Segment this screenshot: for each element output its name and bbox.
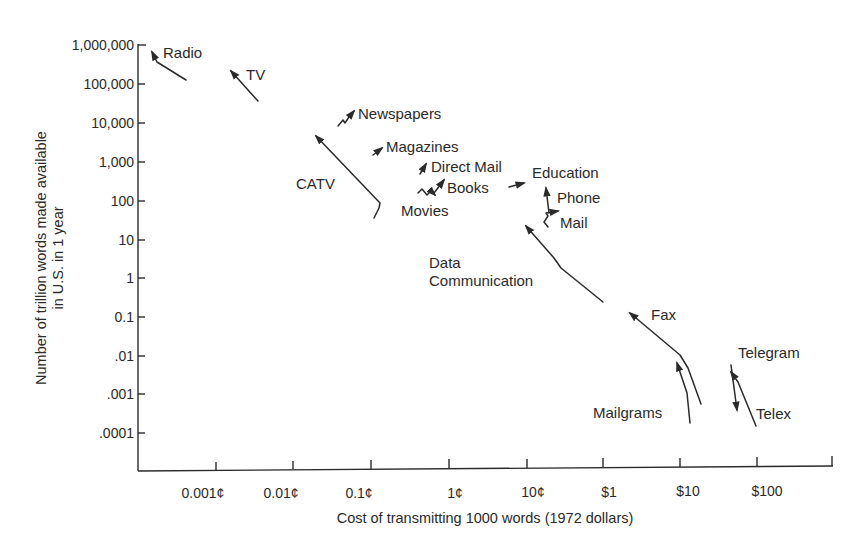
x-tick-label: 10¢: [521, 484, 544, 500]
y-axis-title-line2: in U.S. in 1 year: [50, 206, 66, 309]
label-education: Education: [532, 164, 599, 181]
series-telegram: [731, 365, 737, 410]
y-tick-label: 1,000: [99, 154, 134, 170]
x-tick-label: $10: [676, 483, 700, 499]
label-direct-mail: Direct Mail: [431, 158, 502, 175]
label-data-communication-line1: Data: [429, 254, 461, 271]
label-magazines: Magazines: [386, 138, 459, 155]
series-movies: [418, 189, 435, 195]
y-tick-label: .001: [107, 386, 134, 402]
chart: 1,000,000 100,000 10,000 1,000 100 10 1 …: [0, 0, 859, 551]
label-telex: Telex: [756, 405, 792, 422]
y-tick-label: 1: [126, 270, 134, 286]
x-tick-label: 1¢: [447, 485, 463, 501]
series-newspapers: [338, 111, 354, 126]
label-tv: TV: [246, 66, 265, 83]
y-tick-label: 100: [111, 193, 135, 209]
x-axis: [138, 456, 833, 471]
series-books: [434, 180, 444, 193]
y-tick-label: 10,000: [91, 115, 134, 131]
label-data-communication-line2: Communication: [429, 272, 533, 289]
y-tick-label: 1,000,000: [72, 37, 134, 53]
x-tick-label: 0.01¢: [263, 485, 298, 501]
y-tick-label: .0001: [99, 425, 134, 441]
label-catv: CATV: [296, 175, 335, 192]
label-mail: Mail: [560, 214, 588, 231]
y-tick-labels: 1,000,000 100,000 10,000 1,000 100 10 1 …: [72, 37, 135, 441]
x-tick-label: $100: [751, 483, 782, 499]
x-tick-label: 0.1¢: [345, 485, 372, 501]
series-magazines: [373, 148, 382, 155]
y-axis-title-line1: Number of trillion words made available: [33, 131, 49, 385]
series-mailgrams: [677, 363, 690, 423]
series-telex: [731, 372, 756, 426]
x-tick-labels: 0.001¢ 0.01¢ 0.1¢ 1¢ 10¢ $1 $10 $100: [182, 483, 783, 501]
y-axis: [138, 44, 146, 471]
label-mailgrams: Mailgrams: [593, 404, 662, 421]
label-telegram: Telegram: [738, 344, 800, 361]
label-fax: Fax: [651, 306, 677, 323]
y-tick-label: 100,000: [83, 76, 134, 92]
label-newspapers: Newspapers: [358, 105, 441, 122]
series-lines: [152, 52, 756, 426]
series-education: [509, 183, 524, 187]
y-axis-title: Number of trillion words made available …: [33, 131, 66, 385]
y-tick-label: 0.1: [115, 309, 135, 325]
x-axis-title: Cost of transmitting 1000 words (1972 do…: [337, 510, 634, 526]
series-fax: [630, 313, 701, 404]
y-tick-label: .01: [115, 348, 135, 364]
y-tick-label: 10: [118, 232, 134, 248]
label-books: Books: [447, 179, 489, 196]
label-phone: Phone: [557, 189, 600, 206]
series-mail: [544, 211, 558, 227]
label-radio: Radio: [163, 44, 202, 61]
x-tick-label: 0.001¢: [182, 485, 225, 501]
series-direct-mail: [420, 164, 426, 174]
series-phone: [546, 188, 549, 213]
series-data-communication: [526, 226, 603, 302]
label-movies: Movies: [401, 202, 449, 219]
x-tick-label: $1: [601, 484, 617, 500]
